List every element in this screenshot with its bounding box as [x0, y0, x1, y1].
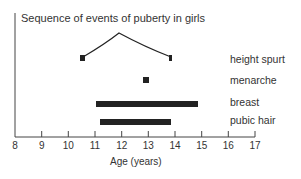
x-tick-label: 10 [63, 140, 74, 151]
x-tick-label: 8 [12, 140, 18, 151]
menarche-marker [143, 77, 149, 83]
breast-bar [96, 101, 198, 107]
x-tick-label: 13 [143, 140, 154, 151]
x-tick-label: 17 [249, 140, 260, 151]
chart-title: Sequence of events of puberty in girls [21, 12, 205, 24]
pubic-hair-bar [100, 119, 171, 125]
label-menarche: menarche [230, 74, 277, 86]
x-tick-label: 16 [223, 140, 234, 151]
x-tick-label: 15 [196, 140, 207, 151]
x-axis-label: Age (years) [110, 156, 162, 167]
x-axis-ticks [42, 131, 255, 137]
label-breast: breast [230, 96, 259, 108]
height-spurt-end-marker [169, 55, 172, 61]
label-height-spurt: height spurt [230, 53, 285, 65]
chart-plot [0, 0, 301, 179]
label-pubic-hair: pubic hair [230, 114, 276, 126]
x-tick-label: 14 [169, 140, 180, 151]
x-tick-label: 9 [39, 140, 45, 151]
height-spurt-curve [83, 33, 171, 57]
x-tick-label: 11 [90, 140, 100, 151]
height-spurt-start-marker [80, 55, 85, 61]
x-tick-label: 12 [116, 140, 127, 151]
